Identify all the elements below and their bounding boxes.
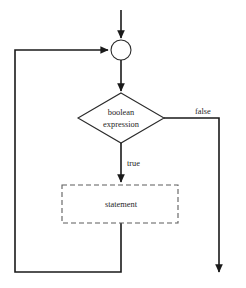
flowchart-canvas: boolean expression false true statement [0, 0, 246, 288]
false-branch-label: false [195, 107, 211, 116]
loop-back-edge [15, 50, 121, 272]
true-branch-label: true [127, 159, 140, 168]
condition-diamond-node [78, 93, 164, 143]
flowchart-diagram: boolean expression false true statement [0, 0, 246, 288]
merge-point-node [111, 40, 131, 60]
condition-label-line1: boolean [108, 108, 135, 117]
statement-label: statement [105, 200, 138, 209]
condition-label-line2: expression [103, 120, 140, 129]
